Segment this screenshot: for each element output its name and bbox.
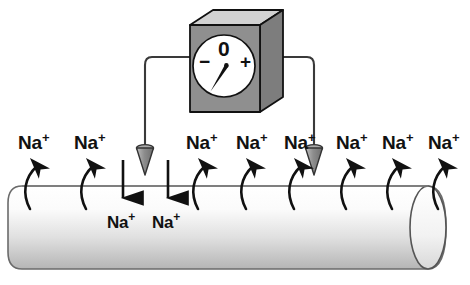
ion-charge-superscript: +: [42, 130, 49, 145]
ion-charge-superscript: +: [406, 130, 413, 145]
meter-needle-pivot: [224, 63, 229, 68]
axon-cylinder: [8, 186, 446, 269]
axon-body: [8, 186, 446, 269]
ion-label-outside-5: Na+: [336, 133, 367, 152]
ion-charge-superscript: +: [360, 130, 367, 145]
ion-label-outside-4: Na+: [284, 133, 315, 152]
meter-plus-label: +: [240, 52, 251, 71]
ion-label-outside-2: Na+: [186, 133, 217, 152]
meter-zero-label: 0: [218, 38, 230, 59]
ion-label-inside-1: Na+: [152, 214, 180, 231]
ion-label-inside-0: Na+: [107, 214, 135, 231]
ion-charge-superscript: +: [260, 130, 267, 145]
ion-label-outside-7: Na+: [428, 133, 459, 152]
ion-charge-superscript: +: [98, 130, 105, 145]
meter-side-face: [260, 10, 283, 112]
ion-label-outside-6: Na+: [382, 133, 413, 152]
ion-charge-superscript: +: [173, 210, 180, 224]
ion-charge-superscript: +: [308, 130, 315, 145]
figure-canvas: 0 − + Na+Na+Na+Na+Na+Na+Na+Na+Na+Na+: [0, 0, 470, 285]
ion-charge-superscript: +: [128, 210, 135, 224]
ion-label-outside-0: Na+: [18, 133, 49, 152]
ion-label-outside-3: Na+: [236, 133, 267, 152]
ion-label-outside-1: Na+: [74, 133, 105, 152]
left-electrode: [137, 145, 154, 175]
ion-charge-superscript: +: [452, 130, 459, 145]
ion-charge-superscript: +: [210, 130, 217, 145]
axon-right-cap: [410, 186, 446, 269]
meter-minus-label: −: [199, 52, 210, 71]
